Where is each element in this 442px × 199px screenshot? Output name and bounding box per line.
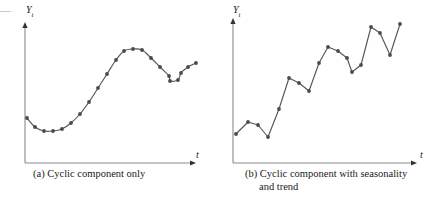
data-point-marker [105, 72, 109, 76]
data-point-marker [140, 48, 144, 52]
data-point-marker [168, 79, 172, 83]
data-point-marker [297, 81, 301, 85]
data-point-marker [149, 56, 153, 60]
data-point-marker [25, 116, 29, 120]
y-axis-label-b: Yt [233, 5, 241, 18]
data-point-marker [369, 25, 373, 29]
y-axis-subscript-a: t [32, 11, 34, 19]
data-point-marker [158, 65, 162, 69]
data-point-marker [69, 121, 73, 125]
y-axis-label-a: Yt [26, 5, 34, 18]
data-point-marker [359, 63, 363, 67]
data-point-marker [388, 53, 392, 57]
data-point-marker [317, 61, 321, 65]
x-axis-arrowhead-icon [411, 160, 417, 165]
data-point-marker [114, 58, 118, 62]
data-point-marker [42, 129, 46, 133]
data-point-marker [87, 100, 91, 104]
data-point-marker [266, 135, 270, 139]
data-point-marker [33, 125, 37, 129]
data-point-marker [234, 132, 238, 136]
y-axis-subscript-b: t [239, 11, 241, 19]
data-point-marker [277, 107, 281, 111]
data-point-marker [194, 61, 198, 65]
data-point-marker [176, 78, 180, 82]
data-series-line [27, 49, 196, 132]
data-point-marker [186, 65, 190, 69]
data-point-marker [256, 123, 260, 127]
caption-b-line2: and trend [245, 181, 442, 194]
y-axis-arrowhead-icon [22, 22, 27, 28]
data-point-marker [78, 112, 82, 116]
y-axis-label-b-text: Y [233, 4, 239, 15]
data-point-marker [167, 74, 171, 78]
data-point-marker [287, 76, 291, 80]
data-series-line [236, 24, 400, 137]
panel-cyclic-component-with-seasonality-and-trend: Yt t (b) Cyclic component with seasonali… [221, 0, 442, 199]
caption-a: (a) Cyclic component only [33, 168, 213, 181]
y-axis-arrowhead-icon [230, 18, 235, 24]
data-point-marker [179, 71, 183, 75]
data-point-marker [96, 86, 100, 90]
caption-b: (b) Cyclic component with seasonalityand… [245, 168, 442, 193]
data-point-marker [350, 70, 354, 74]
x-axis-arrowhead-icon [190, 160, 196, 165]
y-axis-label-a-text: Y [26, 4, 32, 15]
data-point-marker [122, 49, 126, 53]
data-point-marker [246, 120, 250, 124]
data-point-marker [378, 31, 382, 35]
data-point-marker [307, 89, 311, 93]
data-point-marker [60, 127, 64, 131]
caption-b-line1: (b) Cyclic component with seasonality [245, 168, 407, 179]
data-point-marker [131, 47, 135, 51]
data-point-marker [345, 56, 349, 60]
panel-cyclic-component-only: Yt t (a) Cyclic component only [0, 0, 221, 199]
data-point-marker [398, 22, 402, 26]
data-point-marker [336, 49, 340, 53]
x-axis-label-a: t [196, 150, 199, 160]
x-axis-label-b: t [420, 150, 423, 160]
data-point-marker [51, 129, 55, 133]
figure-container: Yt t (a) Cyclic component only Yt t (b) … [0, 0, 442, 199]
data-point-marker [326, 45, 330, 49]
